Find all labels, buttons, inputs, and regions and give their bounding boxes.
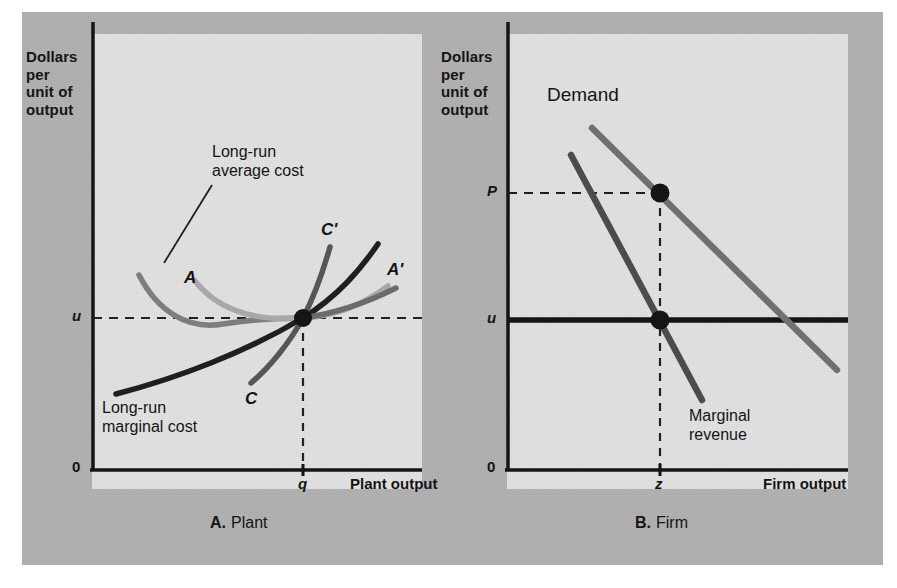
panel-a-y-axis-title: Dollars per unit of output: [26, 48, 88, 119]
panel-b-label-demand: Demand: [547, 84, 619, 107]
panel-a-curve-label-a: A: [184, 268, 196, 288]
curve-marginal-revenue: [571, 155, 702, 400]
panel-b-caption-letter: B.: [635, 514, 651, 531]
panel-b-x-tick-z: z: [655, 475, 663, 492]
panel-a-x-tick-q: q: [298, 475, 307, 492]
panel-a-caption-word: Plant: [231, 514, 267, 531]
panel-b-price-point: [651, 184, 670, 203]
panel-a-plant: Dollars per unit of output u 0 q Plant o…: [92, 34, 422, 489]
panel-a-curve-label-a-prime: A': [387, 260, 403, 280]
panel-a-avg-cost-leader-line: [164, 185, 212, 263]
panel-a-curve-label-c: C: [245, 389, 257, 409]
panel-a-caption: A.Plant: [210, 514, 267, 532]
panel-b-firm: Dollars per unit of output P u 0 z Firm …: [507, 34, 848, 489]
panel-a-caption-letter: A.: [210, 514, 226, 531]
panel-a-curve-label-c-prime: C': [321, 220, 337, 240]
panel-a-origin-label: 0: [72, 458, 80, 475]
panel-b-y-tick-price: P: [487, 182, 497, 199]
panel-b-annotation-marginal-revenue: Marginal revenue: [689, 406, 750, 444]
panel-a-annotation-average-cost: Long-run average cost: [212, 142, 304, 180]
panel-a-annotation-marginal-cost: Long-run marginal cost: [102, 398, 197, 436]
panel-b-origin-label: 0: [487, 458, 495, 475]
figure-root: Dollars per unit of output u 0 q Plant o…: [0, 0, 897, 588]
curve-demand: [592, 128, 837, 370]
panel-b-x-axis-name: Firm output: [763, 475, 846, 492]
figure-gray-frame: Dollars per unit of output u 0 q Plant o…: [22, 12, 883, 565]
panel-b-y-tick-u: u: [487, 309, 496, 326]
panel-b-equilibrium-point: [651, 311, 670, 330]
panel-a-y-tick-u: u: [72, 307, 81, 324]
panel-b-caption: B.Firm: [635, 514, 688, 532]
curve-short-run-average-cost-a-branch: [195, 281, 388, 319]
panel-b-y-axis-title: Dollars per unit of output: [441, 48, 503, 119]
panel-a-x-axis-name: Plant output: [350, 475, 437, 492]
panel-a-equilibrium-point: [294, 309, 312, 327]
panel-b-caption-word: Firm: [656, 514, 688, 531]
